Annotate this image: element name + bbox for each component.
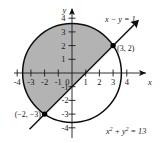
x-tick-label-2: 2 xyxy=(97,77,101,87)
x-tick-label-4: 4 xyxy=(125,77,130,87)
x-tick-label-1: 1 xyxy=(84,77,88,87)
point-label-3-2: (3, 2) xyxy=(117,44,135,53)
x-axis-name-label: x xyxy=(147,77,152,87)
text-layer: -4 -3 -2 -1 1 2 3 4 4 3 2 1 -1 -2 -3 -4 … xyxy=(0,0,161,143)
circle-eq-mid: + y xyxy=(112,127,126,136)
x-tick-label--4: -4 xyxy=(14,77,22,87)
y-tick-label-2: 2 xyxy=(61,41,65,51)
point-label-neg2-neg3: (−2, −3) xyxy=(15,110,42,119)
y-tick-label--3: -3 xyxy=(61,109,68,119)
line-equation-label: x − y = 1 xyxy=(104,15,136,24)
x-tick-labels: -4 -3 -2 -1 1 2 3 4 xyxy=(14,77,130,87)
svg-text:x2 + y2 = 13: x2 + y2 = 13 xyxy=(105,126,146,136)
y-tick-labels: 4 3 2 1 -1 -2 -3 -4 xyxy=(61,13,69,133)
y-tick-label--2: -2 xyxy=(61,95,68,105)
y-tick-label-1: 1 xyxy=(61,54,65,64)
x-tick-label--2: -2 xyxy=(41,77,48,87)
circle-eq-tail: = 13 xyxy=(129,127,147,136)
x-tick-label-3: 3 xyxy=(111,77,115,87)
y-tick-label--4: -4 xyxy=(61,123,69,133)
coordinate-graph-figure: -4 -3 -2 -1 1 2 3 4 4 3 2 1 -1 -2 -3 -4 … xyxy=(0,0,161,143)
origin-label: 0 xyxy=(65,77,69,87)
x-tick-label--3: -3 xyxy=(27,77,34,87)
y-axis-name-label: y xyxy=(62,5,67,15)
y-tick-label-3: 3 xyxy=(61,27,65,37)
circle-equation-label: x2 + y2 = 13 xyxy=(105,126,146,136)
